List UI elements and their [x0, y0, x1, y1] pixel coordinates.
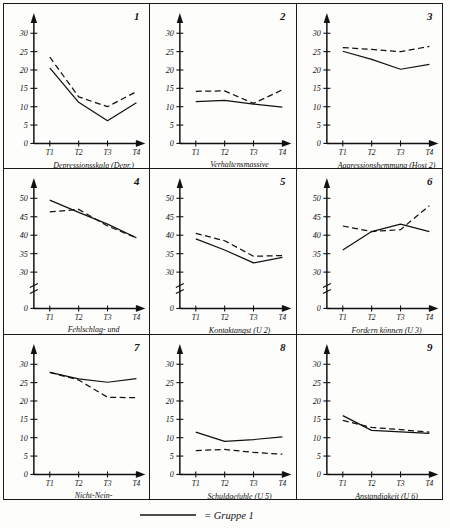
y-tick-label: 30: [19, 29, 28, 38]
series-dashed: [50, 210, 137, 238]
y-tick-label: 20: [166, 66, 174, 75]
x-axis-arrow-icon: [283, 471, 292, 478]
panel-9-chart: 051015202530T1T2T3T49Anstandigkeit (U 6): [297, 335, 442, 499]
x-tick-label: T4: [279, 479, 287, 488]
panel-8-chart: 051015202530T1T2T3T48Schuldgefuhle (U 5): [150, 335, 295, 499]
panel-number: 7: [134, 341, 140, 353]
y-tick-label: 50: [20, 195, 28, 204]
y-tick-label: 20: [312, 397, 320, 406]
series-solid: [196, 100, 283, 107]
x-tick-label: T2: [221, 314, 229, 323]
y-tick-label: 30: [311, 268, 320, 277]
x-tick-label: T3: [104, 479, 112, 488]
y-tick-label: 0: [316, 139, 320, 148]
series-dashed: [342, 46, 429, 51]
y-tick-label: 15: [166, 415, 174, 424]
y-tick-label: 35: [19, 250, 28, 259]
y-tick-label: 45: [312, 213, 320, 222]
nine-panel-figure: 051015202530T1T2T3T41Depressionsskala (D…: [3, 3, 443, 500]
y-tick-label: 35: [311, 250, 320, 259]
panel-caption: Fordern können (U 3): [350, 327, 421, 334]
x-tick-label: T4: [425, 314, 433, 323]
y-tick-label: 50: [166, 195, 174, 204]
y-tick-label: 0: [24, 305, 28, 314]
x-tick-label: T3: [396, 314, 404, 323]
figure-legend: = Gruppe 1: [3, 503, 443, 525]
y-tick-label: 20: [20, 66, 28, 75]
x-tick-label: T1: [192, 479, 200, 488]
y-tick-label: 30: [311, 360, 320, 369]
panel-caption: Aggressionshemmung (Host 2): [336, 161, 435, 168]
y-tick-label: 5: [170, 452, 174, 461]
y-tick-label: 5: [24, 121, 28, 130]
y-tick-label: 30: [311, 29, 320, 38]
y-tick-label: 10: [312, 103, 320, 112]
x-axis-arrow-icon: [136, 471, 145, 478]
y-tick-label: 10: [20, 433, 28, 442]
x-tick-label: T2: [75, 479, 83, 488]
x-tick-label: T1: [192, 148, 200, 157]
panel-number: 4: [133, 175, 140, 187]
series-dashed: [196, 449, 283, 454]
panel-number: 5: [280, 175, 286, 187]
x-tick-label: T2: [367, 148, 375, 157]
y-tick-label: 30: [165, 268, 174, 277]
panel-7: 051015202530T1T2T3T47Nicht-Nein-Sagen-kö…: [4, 335, 150, 499]
x-tick-label: T4: [425, 479, 433, 488]
y-tick-label: 25: [166, 378, 174, 387]
y-tick-label: 20: [166, 397, 174, 406]
y-tick-label: 15: [312, 84, 320, 93]
x-tick-label: T1: [338, 148, 346, 157]
x-tick-label: T2: [75, 148, 83, 157]
y-axis-arrow-icon: [177, 178, 183, 188]
panel-row-2: 03035404550T1T2T3T44Fehlschlag- undKriti…: [4, 169, 442, 334]
y-tick-label: 5: [170, 121, 174, 130]
panel-9: 051015202530T1T2T3T49Anstandigkeit (U 6): [297, 335, 442, 499]
x-tick-label: T1: [338, 314, 346, 323]
series-solid: [342, 51, 429, 69]
y-axis-arrow-icon: [323, 178, 329, 188]
panel-8: 051015202530T1T2T3T48Schuldgefuhle (U 5): [150, 335, 296, 499]
panel-caption: Kontaktangst (U 2): [208, 327, 271, 334]
panel-number: 2: [279, 10, 286, 22]
series-solid: [196, 239, 283, 263]
x-tick-label: T1: [46, 148, 54, 157]
panel-number: 8: [280, 341, 286, 353]
legend-label: = Gruppe 1: [204, 510, 254, 521]
series-solid: [196, 432, 283, 441]
x-axis-arrow-icon: [429, 140, 438, 147]
y-axis-arrow-icon: [323, 344, 329, 354]
y-tick-label: 25: [20, 48, 28, 57]
y-axis-arrow-icon: [31, 13, 37, 23]
panel-row-3: 051015202530T1T2T3T47Nicht-Nein-Sagen-kö…: [4, 335, 442, 499]
x-axis-arrow-icon: [136, 305, 145, 312]
x-axis-arrow-icon: [283, 140, 292, 147]
y-tick-label: 20: [20, 397, 28, 406]
panel-2: 051015202530T1T2T3T42VerhaltensmassiveAg…: [150, 4, 296, 168]
y-tick-label: 25: [20, 378, 28, 387]
y-tick-label: 30: [19, 268, 28, 277]
x-tick-label: T3: [104, 314, 112, 323]
y-tick-label: 50: [312, 195, 320, 204]
x-tick-label: T2: [221, 479, 229, 488]
y-tick-label: 45: [20, 213, 28, 222]
y-axis-arrow-icon: [323, 13, 329, 23]
panel-number: 9: [427, 341, 433, 353]
y-tick-label: 10: [20, 103, 28, 112]
y-tick-label: 40: [312, 232, 320, 241]
series-solid: [50, 372, 137, 382]
panel-caption: Depressionsskala (Depr.): [52, 161, 134, 168]
panel-number: 1: [134, 10, 139, 22]
y-tick-label: 10: [312, 433, 320, 442]
y-tick-label: 10: [166, 433, 174, 442]
legend-swatch-icon: = Gruppe 1: [138, 505, 308, 523]
x-tick-label: T3: [396, 479, 404, 488]
panel-row-1: 051015202530T1T2T3T41Depressionsskala (D…: [4, 4, 442, 169]
panel-4: 03035404550T1T2T3T44Fehlschlag- undKriti…: [4, 169, 150, 333]
panel-4-chart: 03035404550T1T2T3T44Fehlschlag- undKriti…: [4, 169, 149, 333]
x-tick-label: T4: [132, 314, 140, 323]
y-axis-arrow-icon: [177, 13, 183, 23]
x-tick-label: T1: [46, 479, 54, 488]
y-tick-label: 0: [170, 305, 174, 314]
series-dashed: [50, 372, 137, 397]
